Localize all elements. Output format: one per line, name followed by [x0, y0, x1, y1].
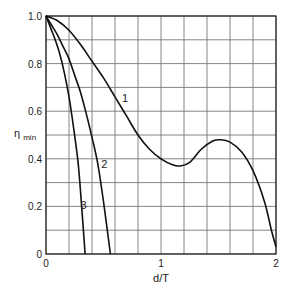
y-tick-label: 1.0	[28, 11, 42, 22]
x-tick-label: 1	[158, 258, 164, 269]
grid	[46, 16, 276, 254]
chart: 123 00.20.40.60.81.0012 d/T η min	[0, 0, 292, 292]
x-tick-label: 2	[273, 258, 279, 269]
curve-label-2: 2	[101, 158, 107, 170]
x-axis-title: d/T	[153, 272, 169, 284]
y-tick-label: 0.8	[28, 59, 42, 70]
curve-label-3: 3	[81, 199, 87, 211]
y-tick-label: 0.4	[28, 154, 42, 165]
y-axis-title: η min	[14, 127, 36, 142]
x-tick-label: 0	[43, 258, 49, 269]
y-axis-title-main: η	[14, 127, 20, 139]
y-tick-label: 0.6	[28, 106, 42, 117]
curve-label-1: 1	[122, 92, 128, 104]
y-tick-label: 0.2	[28, 201, 42, 212]
y-axis-title-sub: min	[23, 133, 36, 142]
y-tick-label: 0	[36, 249, 42, 260]
